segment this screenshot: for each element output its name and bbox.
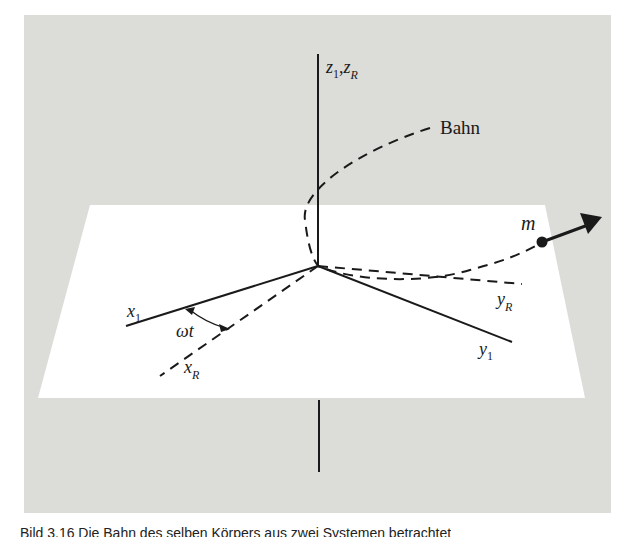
path-label: Bahn (440, 118, 480, 137)
x1-label: x1 (127, 302, 141, 320)
z-axis-label: z1,zR (326, 58, 358, 76)
angle-label: ωt (176, 322, 194, 340)
xR-label: xR (184, 358, 199, 376)
arrowhead-icon (580, 213, 602, 234)
yR-label: yR (497, 290, 512, 308)
mass-label: m (521, 213, 535, 233)
figure-caption: Bild 3.16 Die Bahn des selben Körpers au… (20, 526, 451, 537)
y1-label: y1 (479, 340, 493, 358)
rotating-frame-diagram (0, 0, 629, 537)
